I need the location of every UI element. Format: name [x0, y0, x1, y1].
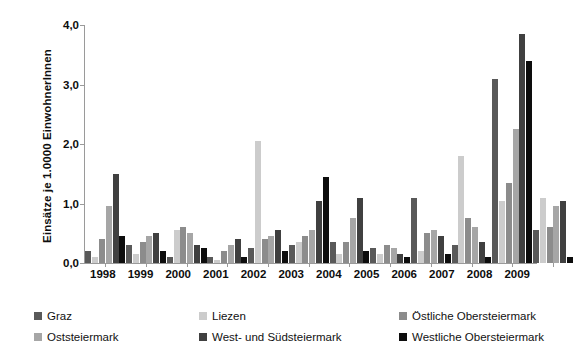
- legend-label: Liezen: [212, 310, 246, 322]
- bar: [438, 236, 444, 263]
- bar: [465, 218, 471, 263]
- bar: [330, 242, 336, 263]
- legend-label: Oststeiermark: [47, 331, 119, 343]
- bar: [479, 242, 485, 263]
- bar: [214, 260, 220, 263]
- bar: [560, 201, 566, 263]
- x-axis-tick-mark: [349, 263, 350, 267]
- bar-group: [533, 25, 574, 263]
- y-axis-tick-label: 2,0: [39, 138, 79, 150]
- bar: [506, 183, 512, 263]
- bar: [255, 141, 261, 263]
- bar: [411, 198, 417, 263]
- bar: [309, 230, 315, 263]
- bar-group: [207, 25, 248, 263]
- bar: [384, 245, 390, 263]
- bar: [92, 257, 98, 263]
- x-axis-tick-label: 2006: [385, 268, 423, 280]
- bar-group: [370, 25, 411, 263]
- legend-item[interactable]: Graz: [34, 310, 199, 322]
- bar: [296, 242, 302, 263]
- x-axis-tick-mark: [146, 263, 147, 267]
- bar-group: [411, 25, 452, 263]
- bar-group: [451, 25, 492, 263]
- bar-group: [288, 25, 329, 263]
- x-axis-tick-label: 2005: [348, 268, 386, 280]
- bar: [418, 251, 424, 263]
- bar: [106, 206, 112, 263]
- bar-group: [126, 25, 167, 263]
- bar: [248, 248, 254, 263]
- legend-swatch-icon: [199, 312, 207, 320]
- x-axis-tick-mark: [227, 263, 228, 267]
- bar: [174, 230, 180, 263]
- x-axis-tick-mark: [472, 263, 473, 267]
- x-axis-tick-label: 1998: [84, 268, 122, 280]
- legend-label: Graz: [47, 310, 72, 322]
- x-axis-tick-mark: [553, 263, 554, 267]
- bar: [513, 129, 519, 263]
- x-axis-tick-mark: [512, 263, 513, 267]
- x-axis-tick-mark: [309, 263, 310, 267]
- legend-swatch-icon: [34, 333, 42, 341]
- x-axis-tick-mark: [431, 263, 432, 267]
- bar: [180, 227, 186, 263]
- y-axis-tick-label: 1,0: [39, 198, 79, 210]
- x-axis-tick-mark: [390, 263, 391, 267]
- bar: [235, 239, 241, 263]
- bar: [343, 242, 349, 263]
- bar: [363, 251, 369, 263]
- x-axis-tick-label: 2007: [423, 268, 461, 280]
- bar: [207, 257, 213, 263]
- bar: [357, 198, 363, 263]
- legend-swatch-icon: [399, 333, 407, 341]
- x-axis-tick-label: 2004: [310, 268, 348, 280]
- legend-item[interactable]: Östliche Obersteiermark: [399, 310, 577, 322]
- bar: [397, 254, 403, 263]
- x-axis-tick-label: 2001: [197, 268, 235, 280]
- bar: [153, 233, 159, 263]
- bar: [553, 206, 559, 263]
- plot-area: 4,03,02,01,00,0: [84, 25, 537, 264]
- x-axis-tick-label: 2003: [272, 268, 310, 280]
- bar: [445, 254, 451, 263]
- bar: [452, 245, 458, 263]
- bar: [391, 248, 397, 263]
- x-axis-tick-label: 2009: [498, 268, 536, 280]
- bar: [85, 251, 91, 263]
- legend-swatch-icon: [199, 333, 207, 341]
- y-axis-tick-label: 0,0: [39, 257, 79, 269]
- legend-item[interactable]: Oststeiermark: [34, 331, 199, 343]
- bar: [133, 254, 139, 263]
- bar: [492, 79, 498, 263]
- bar: [350, 218, 356, 263]
- bar: [323, 177, 329, 263]
- legend-item[interactable]: West- und Südsteiermark: [199, 331, 399, 343]
- bar: [316, 201, 322, 263]
- bar: [146, 236, 152, 263]
- bar: [336, 254, 342, 263]
- legend-item[interactable]: Liezen: [199, 310, 399, 322]
- legend-label: West- und Südsteiermark: [212, 331, 342, 343]
- bar: [370, 248, 376, 263]
- bar: [282, 251, 288, 263]
- y-axis-tick-label: 3,0: [39, 79, 79, 91]
- x-axis-labels: 1998199920002001200220032004200520062007…: [84, 268, 536, 280]
- x-axis-tick-label: 2000: [159, 268, 197, 280]
- bar: [126, 245, 132, 263]
- bar: [485, 257, 491, 263]
- bar: [302, 236, 308, 263]
- legend-swatch-icon: [34, 312, 42, 320]
- chart-legend: GrazLiezenÖstliche ObersteiermarkOststei…: [34, 305, 544, 347]
- bar: [268, 236, 274, 263]
- bar: [262, 239, 268, 263]
- y-axis-tick-label: 4,0: [39, 19, 79, 31]
- bar: [201, 248, 207, 263]
- x-axis-tick-mark: [105, 263, 106, 267]
- bar: [404, 257, 410, 263]
- bar: [221, 251, 227, 263]
- x-axis-tick-label: 2008: [461, 268, 499, 280]
- bar: [377, 254, 383, 263]
- legend-item[interactable]: Westliche Obersteiermark: [399, 331, 577, 343]
